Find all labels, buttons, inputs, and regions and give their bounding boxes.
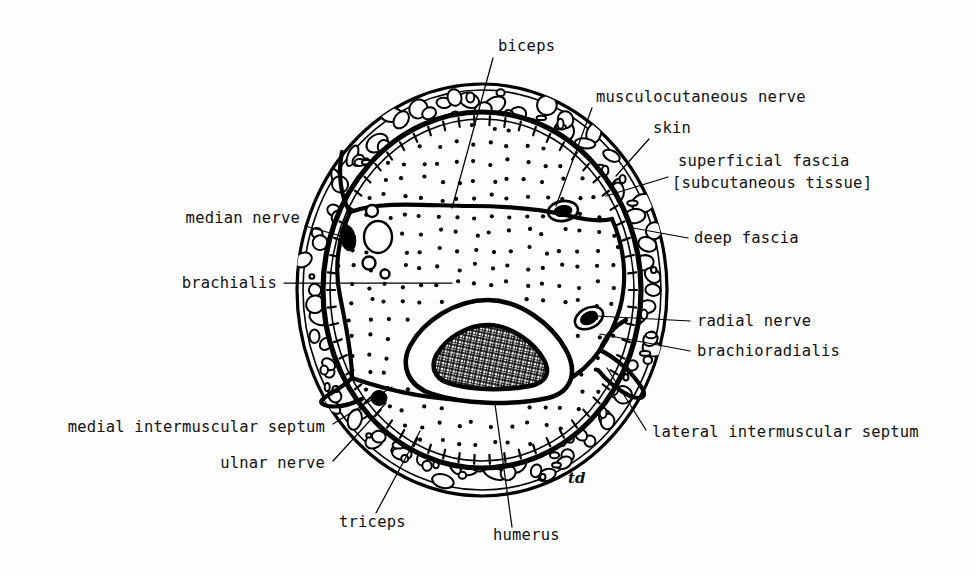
stipple-dot — [527, 160, 531, 164]
deep-fascia-tick — [428, 445, 431, 454]
label-medial-intermuscular-septum: medial intermuscular septum — [68, 418, 325, 436]
stipple-dot — [406, 318, 410, 322]
fat-lobule-small — [646, 332, 657, 338]
deep-fascia-tick — [328, 307, 336, 308]
deep-fascia-tick — [328, 272, 336, 273]
fat-lobule-small — [366, 433, 371, 437]
label-humerus: humerus — [493, 526, 560, 544]
stipple-dot — [596, 249, 600, 253]
stipple-dot — [405, 251, 409, 255]
stipple-dot — [440, 300, 444, 304]
fat-lobule-small — [537, 116, 546, 120]
stipple-dot — [558, 406, 562, 410]
stipple-dot — [471, 143, 475, 147]
stipple-dot — [612, 286, 616, 290]
stipple-dot — [596, 279, 600, 283]
stipple-dot — [506, 440, 510, 444]
deep-fascia-tick — [428, 127, 431, 136]
deep-fascia-tick — [504, 118, 505, 127]
stipple-dot — [438, 246, 442, 250]
stipple-dot — [422, 404, 426, 408]
stipple-dot — [422, 174, 426, 178]
vein-marker-3 — [381, 270, 390, 279]
fat-lobule-small — [466, 92, 474, 102]
stipple-dot — [399, 176, 403, 180]
stipple-dot — [493, 127, 497, 131]
stipple-dot — [438, 421, 442, 425]
stipple-dot — [473, 443, 477, 447]
stipple-dot — [401, 285, 405, 289]
deep-fascia-tick — [504, 453, 505, 462]
stipple-dot — [471, 179, 475, 183]
fat-lobule-small — [640, 351, 650, 356]
stipple-dot — [611, 263, 615, 267]
stipple-dot — [472, 197, 476, 201]
fat-lobule-small — [459, 472, 467, 479]
stipple-dot — [576, 334, 580, 338]
stipple-dot — [441, 438, 445, 442]
stipple-dot — [580, 390, 584, 394]
artist-signature: td — [568, 469, 586, 487]
stipple-dot — [509, 249, 513, 253]
deep-fascia-tick — [474, 455, 475, 464]
deep-fascia-tick — [519, 122, 521, 131]
stipple-dot — [403, 424, 407, 428]
stipple-dot — [488, 163, 492, 167]
stipple-dot — [441, 180, 445, 184]
stipple-dot — [539, 232, 543, 236]
stipple-dot — [403, 194, 407, 198]
stipple-dot — [558, 164, 562, 168]
stipple-dot — [564, 227, 568, 231]
stipple-dot — [528, 442, 532, 446]
stipple-dot — [417, 301, 421, 305]
deep-fascia-tick — [533, 445, 536, 454]
stipple-dot — [493, 180, 497, 184]
stipple-dot — [458, 424, 462, 428]
stipple-dot — [577, 286, 581, 290]
stipple-dot — [387, 317, 391, 321]
stipple-dot — [439, 228, 443, 232]
stipple-dot — [505, 263, 509, 267]
stipple-dot — [472, 281, 476, 285]
stipple-dot — [525, 420, 529, 424]
stipple-dot — [368, 370, 372, 374]
label-subcutaneous-tissue: [subcutaneous tissue] — [672, 174, 872, 192]
stipple-dot — [527, 245, 531, 249]
label-triceps: triceps — [339, 513, 406, 531]
deep-fascia-tick — [459, 453, 460, 462]
stipple-dot — [469, 420, 473, 424]
stipple-dot — [347, 318, 351, 322]
stipple-dot — [598, 335, 602, 339]
stipple-dot — [507, 215, 511, 219]
stipple-dot — [456, 279, 460, 283]
stipple-dot — [406, 387, 410, 391]
stipple-dot — [418, 438, 422, 442]
stipple-dot — [492, 250, 496, 254]
stipple-dot — [526, 195, 530, 199]
fat-lobule — [309, 329, 319, 343]
stipple-dot — [504, 177, 508, 181]
stipple-dot — [578, 196, 582, 200]
stipple-dot — [507, 228, 511, 232]
stipple-dot — [489, 140, 493, 144]
stipple-dot — [420, 425, 424, 429]
stipple-dot — [417, 266, 421, 270]
stipple-dot — [580, 176, 584, 180]
stipple-dot — [435, 162, 439, 166]
stipple-dot — [510, 425, 514, 429]
stipple-dot — [504, 144, 508, 148]
stipple-dot — [557, 284, 561, 288]
stipple-dot — [541, 298, 545, 302]
stipple-dot — [369, 318, 373, 322]
stipple-dot — [402, 162, 406, 166]
stipple-dot — [368, 332, 372, 336]
label-brachioradialis: brachioradialis — [697, 342, 840, 360]
stipple-dot — [609, 302, 613, 306]
label-radial-nerve: radial nerve — [697, 312, 811, 330]
stipple-dot — [557, 249, 561, 253]
deep-fascia-tick — [519, 450, 521, 459]
stipple-dot — [526, 284, 530, 288]
stipple-dot — [350, 334, 354, 338]
stipple-dot — [525, 297, 529, 301]
deep-fascia-tick — [622, 238, 630, 241]
